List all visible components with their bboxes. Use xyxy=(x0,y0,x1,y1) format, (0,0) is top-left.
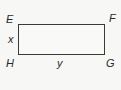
vertex-label-e: E xyxy=(6,14,13,25)
side-label-x: x xyxy=(8,34,14,45)
vertex-label-h: H xyxy=(6,58,14,69)
vertex-label-f: F xyxy=(109,13,116,24)
rectangle-efgh xyxy=(18,24,105,55)
vertex-label-g: G xyxy=(106,58,115,69)
side-label-y: y xyxy=(57,58,63,69)
